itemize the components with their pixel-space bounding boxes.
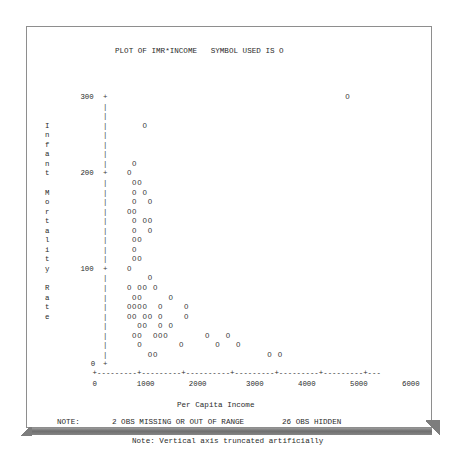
y-axis-line-segment: | (103, 112, 107, 120)
page-curl-left (20, 427, 32, 436)
data-point-symbol: O (132, 160, 136, 168)
y-axis-title-char: t (45, 169, 49, 177)
sas-plot-canvas: PLOT OF IMR*INCOME SYMBOL USED IS O+300O… (27, 27, 431, 427)
y-axis-tick-label: 100 (80, 265, 93, 273)
y-axis-title-char: t (45, 217, 49, 225)
data-point-symbol: O (236, 341, 240, 349)
x-axis-tick-label: 4000 (298, 380, 316, 388)
y-axis-title-char: r (45, 208, 49, 216)
x-axis-tick-label: 1000 (137, 380, 155, 388)
data-point-symbol: O (137, 284, 141, 292)
data-point-symbol: O (132, 208, 136, 216)
y-axis-line-segment: | (103, 160, 107, 168)
data-point-symbol: O (137, 294, 141, 302)
document-page: PLOT OF IMR*INCOME SYMBOL USED IS O+300O… (26, 26, 432, 428)
data-point-symbol: O (127, 303, 131, 311)
data-point-symbol: O (158, 303, 162, 311)
note-label: NOTE: (57, 418, 80, 426)
data-point-symbol: O (132, 294, 136, 302)
y-axis-title-char: n (45, 131, 49, 139)
data-point-symbol: O (132, 179, 136, 187)
data-point-symbol: O (169, 294, 173, 302)
data-point-symbol: O (153, 351, 157, 359)
data-point-symbol: O (127, 265, 131, 273)
data-point-symbol: O (179, 341, 183, 349)
y-axis-line-segment: | (103, 227, 107, 235)
data-point-symbol: O (148, 351, 152, 359)
data-point-symbol: O (132, 313, 136, 321)
y-axis-line-segment: | (103, 103, 107, 111)
x-axis-title: Per Capita Income (177, 401, 254, 409)
y-axis-title-char: i (45, 246, 49, 254)
y-axis-line-segment: | (103, 313, 107, 321)
data-point-symbol: O (158, 322, 162, 330)
data-point-symbol: O (137, 255, 141, 263)
y-axis-tick-mark: + (103, 93, 107, 101)
y-axis-line-segment: | (103, 246, 107, 254)
y-axis-line-segment: | (103, 303, 107, 311)
note-missing-text: 2 OBS MISSING OR OUT OF RANGE (112, 418, 244, 426)
y-axis-line-segment: | (103, 274, 107, 282)
y-axis-line-segment: | (103, 332, 107, 340)
y-axis-title-char: n (45, 160, 49, 168)
data-point-symbol: O (158, 332, 162, 340)
y-axis-line-segment: | (103, 141, 107, 149)
data-point-symbol: O (148, 227, 152, 235)
x-axis-line: +---------+---------+----------+--------… (93, 369, 381, 377)
y-axis-line-segment: | (103, 217, 107, 225)
data-point-symbol: O (143, 303, 147, 311)
data-point-symbol: O (132, 217, 136, 225)
data-point-symbol: O (132, 227, 136, 235)
data-point-symbol: O (267, 351, 271, 359)
y-axis-title-char: a (45, 294, 49, 302)
data-point-symbol: O (278, 351, 282, 359)
note-hidden-text: 26 OBS HIDDEN (282, 418, 341, 426)
data-point-symbol: O (143, 189, 147, 197)
y-axis-line-segment: | (103, 150, 107, 158)
y-axis-tick-mark: + (103, 169, 107, 177)
plot-title: PLOT OF IMR*INCOME SYMBOL USED IS O (115, 47, 284, 55)
data-point-symbol: O (148, 313, 152, 321)
data-point-symbol: O (143, 322, 147, 330)
y-axis-title-char: a (45, 227, 49, 235)
data-point-symbol: O (137, 322, 141, 330)
y-axis-title-char: o (45, 198, 49, 206)
y-axis-line-segment: | (103, 189, 107, 197)
data-point-symbol: O (132, 198, 136, 206)
y-axis-line-segment: | (103, 284, 107, 292)
y-axis-title-char: f (45, 141, 49, 149)
data-point-symbol: O (127, 169, 131, 177)
y-axis-title-char: t (45, 303, 49, 311)
y-axis-tick-mark: + (103, 360, 107, 368)
data-point-symbol: O (143, 217, 147, 225)
y-axis-line-segment: | (103, 208, 107, 216)
data-point-symbol: O (137, 303, 141, 311)
x-axis-tick-label: 2000 (189, 380, 207, 388)
page-bottom-shadow (28, 428, 432, 435)
y-axis-tick-label: 0 (91, 360, 95, 368)
x-axis-tick-label: 5000 (350, 380, 368, 388)
data-point-symbol: O (345, 93, 349, 101)
note-truncated-text: Note: Vertical axis truncated artificial… (132, 437, 323, 445)
data-point-symbol: O (148, 217, 152, 225)
y-axis-tick-mark: + (103, 265, 107, 273)
scanned-page-area: PLOT OF IMR*INCOME SYMBOL USED IS O+300O… (0, 0, 471, 471)
y-axis-line-segment: | (103, 198, 107, 206)
y-axis-title-char: y (45, 265, 49, 273)
y-axis-tick-label: 200 (80, 169, 93, 177)
data-point-symbol: O (132, 189, 136, 197)
data-point-symbol: O (137, 179, 141, 187)
y-axis-title-char: e (45, 313, 49, 321)
data-point-symbol: O (132, 303, 136, 311)
data-point-symbol: O (158, 313, 162, 321)
data-point-symbol: O (137, 332, 141, 340)
y-axis-tick-label: 300 (80, 93, 93, 101)
y-axis-line-segment: | (103, 341, 107, 349)
y-axis-line-segment: | (103, 236, 107, 244)
x-axis-tick-label: 6000 (402, 380, 420, 388)
y-axis-line-segment: | (103, 122, 107, 130)
data-point-symbol: O (153, 332, 157, 340)
y-axis-line-segment: | (103, 322, 107, 330)
data-point-symbol: O (184, 303, 188, 311)
data-point-symbol: O (215, 341, 219, 349)
